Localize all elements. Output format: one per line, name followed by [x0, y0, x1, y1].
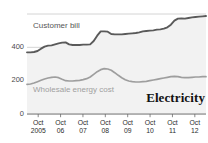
- x-tick-12: Oct12: [182, 120, 208, 135]
- electricity-chart: Customer bill Wholesale energy cost Elec…: [0, 0, 208, 143]
- clipped-header-text: [24, 0, 84, 4]
- x-axis: [27, 114, 206, 117]
- chart-title: Electricity: [146, 91, 205, 104]
- y-tick-400: 400: [0, 43, 24, 51]
- y-tick-200: 200: [0, 76, 24, 84]
- y-tick-0: 0: [0, 110, 24, 118]
- series-label-customer-bill: Customer bill: [33, 22, 80, 30]
- series-label-wholesale: Wholesale energy cost: [33, 86, 114, 94]
